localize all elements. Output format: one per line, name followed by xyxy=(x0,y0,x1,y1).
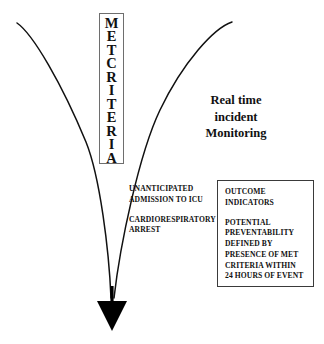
criteria-letter: A xyxy=(106,152,116,165)
outcome-body-line: POTENTIAL xyxy=(225,218,313,229)
met-criteria-word-criteria: CRITERIA xyxy=(106,57,116,165)
met-criteria-box: MET CRITERIA xyxy=(99,13,124,164)
trigger-line: ARREST xyxy=(129,225,221,236)
outcome-body-line: PRESENCE OF MET xyxy=(225,250,313,261)
trigger-line: ADMISSION TO ICU xyxy=(129,195,221,206)
outcome-heading-line: OUTCOME xyxy=(225,187,313,198)
trigger-item: CARDIORESPIRATORY ARREST xyxy=(129,215,221,237)
funnel-graphic xyxy=(0,0,324,344)
met-funnel-diagram: MET CRITERIA Real time incident Monitori… xyxy=(0,0,324,344)
funnel-left-curve xyxy=(17,23,111,298)
outcome-body-line: CRITERIA WITHIN xyxy=(225,261,313,272)
trigger-event-list: UNANTICIPATED ADMISSION TO ICU CARDIORES… xyxy=(129,184,221,236)
real-time-monitoring-label: Real time incident Monitoring xyxy=(176,92,296,142)
outcome-indicators-box: OUTCOME INDICATORS POTENTIAL PREVENTABIL… xyxy=(217,180,314,287)
monitoring-line-2: incident xyxy=(176,109,296,126)
trigger-line: CARDIORESPIRATORY xyxy=(129,215,221,226)
outcome-box-heading: OUTCOME INDICATORS xyxy=(225,187,313,209)
met-criteria-word-met: MET xyxy=(105,17,119,57)
monitoring-line-1: Real time xyxy=(176,92,296,109)
funnel-right-curve xyxy=(114,22,232,298)
arrow-head-icon xyxy=(97,301,127,331)
trigger-item: UNANTICIPATED ADMISSION TO ICU xyxy=(129,184,221,206)
outcome-body-line: DEFINED BY xyxy=(225,239,313,250)
trigger-line: UNANTICIPATED xyxy=(129,184,221,195)
outcome-heading-line: INDICATORS xyxy=(225,198,313,209)
outcome-box-body: POTENTIAL PREVENTABILITY DEFINED BY PRES… xyxy=(225,218,313,283)
outcome-body-line: 24 HOURS OF EVENT xyxy=(225,271,313,282)
monitoring-line-3: Monitoring xyxy=(176,125,296,142)
bottom-clipped-artifact xyxy=(6,338,256,344)
outcome-body-line: PREVENTABILITY xyxy=(225,228,313,239)
